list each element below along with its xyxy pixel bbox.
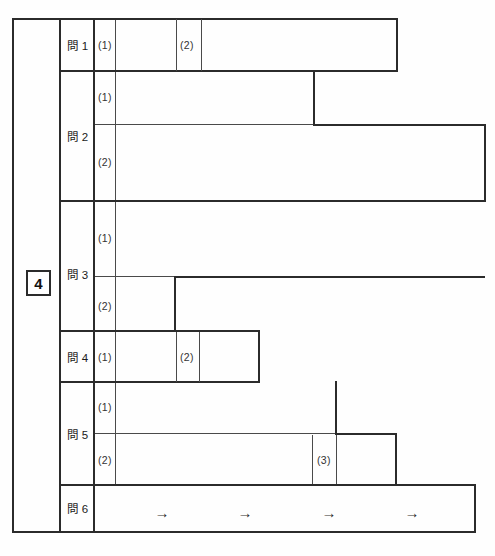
mon5-label: 問 5 bbox=[61, 422, 93, 446]
mon5-sub1-label: (1) bbox=[95, 395, 115, 419]
mon1-sub2-answer-field[interactable] bbox=[203, 21, 395, 69]
mon5-sub3-answer-field[interactable] bbox=[338, 435, 394, 484]
mon3-sub2-label: (2) bbox=[95, 294, 115, 318]
mon5-sub3-label: (3) bbox=[314, 448, 336, 472]
mon1-sub1-answer-field[interactable] bbox=[117, 21, 175, 69]
mon5-sub2-right-border bbox=[395, 433, 397, 486]
mon5-sub2-answer-field[interactable] bbox=[117, 435, 311, 484]
mon6-arrow-2: → bbox=[238, 505, 253, 520]
mon4-right-border bbox=[258, 330, 260, 383]
mon3-sub2-top-border bbox=[174, 276, 485, 278]
outer-bottom-border bbox=[12, 531, 476, 533]
col-divider-sublabel bbox=[115, 18, 116, 486]
outer-left-border bbox=[12, 18, 14, 533]
mon5-sub1-bottom-border bbox=[95, 433, 336, 434]
mon6-label: 問 6 bbox=[61, 496, 93, 520]
mon1-sub2-right-divider bbox=[201, 19, 202, 71]
mon5-sub3-right-divider bbox=[336, 435, 337, 484]
mon2-label: 問 2 bbox=[61, 124, 93, 148]
mon3-label: 問 3 bbox=[61, 262, 93, 286]
mon2-sub2-label: (2) bbox=[95, 150, 115, 174]
mon1-right-border bbox=[396, 18, 398, 72]
mon4-sub1-label: (1) bbox=[95, 345, 115, 369]
mon6-arrow-3: → bbox=[322, 505, 337, 520]
question-number-badge: 4 bbox=[26, 270, 51, 296]
mon1-sub2-label: (2) bbox=[177, 33, 201, 57]
question-number-value: 4 bbox=[34, 275, 42, 292]
mon2-sub1-answer-field[interactable] bbox=[117, 72, 312, 123]
outer-top-border-left bbox=[12, 18, 61, 20]
mon4-sub2-label: (2) bbox=[177, 345, 199, 369]
mon5-sub3-left-divider bbox=[312, 435, 313, 484]
mon4-label: 問 4 bbox=[61, 345, 93, 369]
mon2-sub1-bottom-border bbox=[95, 124, 314, 125]
mon3-sub1-answer-field[interactable] bbox=[117, 203, 483, 275]
mon3-sub2-answer-field[interactable] bbox=[117, 278, 175, 330]
mon1-top-border bbox=[59, 18, 398, 20]
mon3-sub1-label: (1) bbox=[95, 226, 115, 250]
mon6-arrow-4: → bbox=[405, 505, 420, 520]
mon5-sub1-right-border bbox=[335, 381, 337, 434]
mon4-sub2-answer-field[interactable] bbox=[201, 332, 257, 381]
mon5-sub2-label: (2) bbox=[95, 448, 115, 472]
mon2-bottom-border bbox=[59, 200, 486, 202]
mon2-sub1-right-border bbox=[313, 70, 315, 125]
mon4-sub2-right-divider bbox=[199, 332, 200, 382]
mon2-sub2-top-border bbox=[313, 124, 486, 126]
mon1-label: 問 1 bbox=[61, 33, 93, 57]
mon2-sub1-label: (1) bbox=[95, 85, 115, 109]
mon6-right-border bbox=[474, 484, 476, 533]
mon4-sub1-answer-field[interactable] bbox=[117, 332, 175, 381]
answer-sheet: 4 問 1 (1) (2) 問 2 (1) (2) bbox=[0, 0, 495, 556]
mon5-sub1-answer-field[interactable] bbox=[117, 383, 334, 433]
mon6-arrow-1: → bbox=[155, 505, 170, 520]
mon2-sub2-right-border bbox=[484, 124, 486, 202]
mon2-sub2-answer-field[interactable] bbox=[117, 127, 483, 199]
mon1-sub1-label: (1) bbox=[95, 33, 115, 57]
